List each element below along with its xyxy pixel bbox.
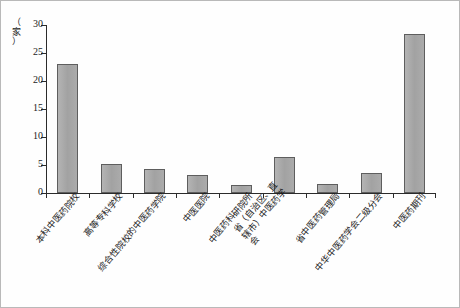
x-axis-category-label: 中医药期刊 bbox=[391, 190, 428, 231]
bar bbox=[187, 175, 208, 193]
x-axis-category-label: 中医医院 bbox=[180, 190, 211, 224]
y-unit-char-close: ） bbox=[9, 37, 23, 47]
y-tick-label: 0 bbox=[38, 186, 43, 198]
y-axis-unit-label: （ 家 ） bbox=[9, 18, 23, 47]
x-axis-category-label: 高等专科学校 bbox=[82, 190, 125, 238]
y-tick-label: 15 bbox=[33, 102, 43, 114]
y-tick-label: 30 bbox=[33, 18, 43, 30]
y-tick-label: 5 bbox=[38, 158, 43, 170]
bar bbox=[144, 169, 165, 193]
bar bbox=[57, 64, 78, 193]
bar bbox=[101, 164, 122, 193]
plot-area: 051015202530 bbox=[46, 25, 436, 193]
y-tick-label: 20 bbox=[33, 74, 43, 86]
y-tick-label: 25 bbox=[33, 46, 43, 58]
x-axis-category-label: 省中医药管理局 bbox=[293, 190, 342, 245]
x-axis-labels: 本科中医药院校高等专科学校综合性院校的中医药学院中医医院中医药科研院所省（自治区… bbox=[46, 197, 460, 307]
bar bbox=[404, 34, 425, 193]
x-axis-category-label: 本科中医药院校 bbox=[33, 190, 82, 245]
y-axis-line bbox=[46, 25, 47, 194]
bar bbox=[361, 173, 382, 193]
y-tick-label: 10 bbox=[33, 130, 43, 142]
chart-figure: （ 家 ） 051015202530 本科中医药院校高等专科学校综合性院校的中医… bbox=[0, 0, 460, 308]
